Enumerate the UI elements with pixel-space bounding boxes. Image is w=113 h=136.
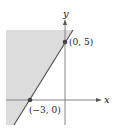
x-axis-arrow-icon [96,98,102,102]
point-0-5 [63,40,68,45]
inequality-graph: y x (0, 5) (−3, 0) [0,0,113,136]
point-neg3-0 [28,98,33,103]
point-0-5-label: (0, 5) [69,37,93,47]
x-axis-label: x [104,94,110,105]
y-axis-label: y [62,8,69,19]
y-axis-arrow-icon [63,19,67,25]
point-neg3-0-label: (−3, 0) [29,105,61,115]
